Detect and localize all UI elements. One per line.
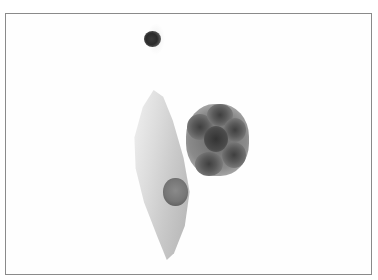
image-frame <box>5 13 372 275</box>
cluster-nucleus <box>204 126 228 152</box>
squamous-cell-nucleus <box>163 178 188 206</box>
cluster-nucleus <box>195 152 223 176</box>
squamous-cell-cytoplasm <box>132 90 192 260</box>
small-isolated-cell <box>144 31 161 47</box>
